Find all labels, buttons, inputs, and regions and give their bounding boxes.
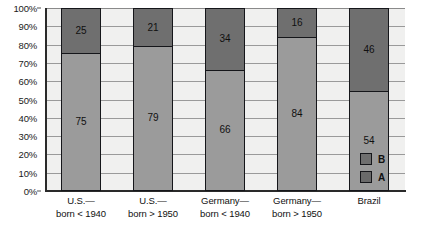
bar-segment-value-label: 16 (291, 18, 302, 28)
caption-fragment (4, 228, 204, 234)
legend-item: A (360, 168, 404, 186)
bar-segment-b: 25 (62, 9, 100, 54)
bar: 1684 (277, 8, 317, 191)
y-axis-tick-label: 20% (19, 149, 37, 160)
bar-segment-value-label: 34 (219, 34, 230, 44)
bar-segment-value-label: 25 (75, 26, 86, 36)
legend-swatch-b (360, 153, 372, 165)
bar-segment-value-label: 46 (363, 45, 374, 55)
y-axis-labels: 100%90%80%70%60%50%40%30%20%10%0% (0, 8, 41, 191)
y-axis-tick-label: 0% (24, 186, 37, 197)
y-axis-tick-label: 40% (19, 112, 37, 123)
legend-label: B (378, 154, 385, 165)
bar-segment-a: 84 (278, 38, 316, 190)
bar: 2575 (61, 8, 101, 191)
bar-segment-value-label: 79 (147, 113, 158, 123)
y-axis-tick-mark (37, 191, 41, 192)
bar-segment-value-label: 21 (147, 23, 158, 33)
chart-legend: BA (360, 150, 404, 186)
y-axis-tick-label: 90% (19, 21, 37, 32)
bar-segment-value-label: 84 (291, 109, 302, 119)
x-axis-label-line: born > 1950 (252, 207, 342, 220)
legend-item: B (360, 150, 404, 168)
bar-segment-value-label: 54 (363, 136, 374, 146)
y-axis-tick-label: 50% (19, 94, 37, 105)
bar-segment-b: 46 (350, 9, 388, 92)
bar: 2179 (133, 8, 173, 191)
y-axis-tick-label: 80% (19, 39, 37, 50)
y-axis-tick-label: 70% (19, 57, 37, 68)
bar: 3466 (205, 8, 245, 191)
x-axis-category-label: Brazil (324, 194, 414, 207)
y-axis-tick-label: 30% (19, 131, 37, 142)
bar-segment-value-label: 75 (75, 117, 86, 127)
x-axis-label-line: Brazil (324, 194, 414, 207)
bars-layer: 25752179346616844654 (45, 8, 405, 191)
bar-segment-b: 16 (278, 9, 316, 38)
bar-segment-a: 66 (206, 71, 244, 190)
y-axis-tick-mark (37, 8, 41, 9)
bar-segment-value-label: 66 (219, 125, 230, 135)
y-axis-tick-label: 60% (19, 76, 37, 87)
legend-label: A (378, 172, 385, 183)
bar-segment-b: 21 (134, 9, 172, 47)
legend-swatch-a (360, 171, 372, 183)
stacked-bar-chart: 100%90%80%70%60%50%40%30%20%10%0% 257521… (0, 0, 429, 236)
x-axis-category-labels: U.S.—born < 1940U.S.—born > 1950Germany—… (45, 194, 405, 228)
bar-segment-a: 79 (134, 47, 172, 190)
bar-segment-b: 34 (206, 9, 244, 71)
bar-segment-a: 75 (62, 54, 100, 190)
y-axis-tick-label: 10% (19, 167, 37, 178)
y-axis-tick-label: 100% (14, 3, 38, 14)
